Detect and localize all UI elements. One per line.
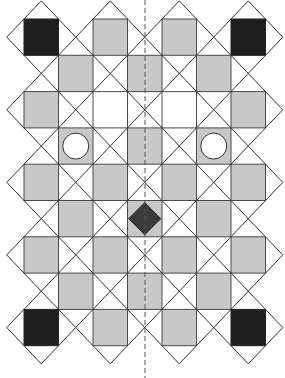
gray-square-tile: [231, 164, 266, 200]
gray-square-tile: [93, 19, 128, 55]
bottom-edge-triangle: [24, 346, 59, 364]
black-square-tile: [231, 19, 266, 55]
gray-square-tile: [162, 309, 197, 345]
right-edge-triangle: [266, 19, 283, 55]
gray-square-tile: [59, 201, 94, 237]
gray-square-tile: [197, 55, 232, 91]
gray-square-tile: [162, 237, 197, 273]
top-edge-triangle: [231, 1, 266, 19]
right-edge-triangle: [266, 309, 283, 345]
top-edge-triangle: [93, 1, 128, 19]
gray-square-tile: [93, 164, 128, 200]
left-edge-triangle: [7, 19, 24, 55]
right-edge-triangle: [266, 237, 283, 273]
black-square-tile: [231, 309, 266, 345]
gray-square-tile: [93, 237, 128, 273]
circle-marker: [201, 133, 227, 159]
gray-square-tile: [231, 237, 266, 273]
gray-square-tile: [197, 201, 232, 237]
right-edge-triangle: [266, 164, 283, 200]
white-square-tile: [162, 92, 197, 128]
circle-marker: [63, 133, 89, 159]
gray-square-tile: [59, 55, 94, 91]
gray-square-tile: [162, 164, 197, 200]
left-edge-triangle: [7, 164, 24, 200]
gray-square-tile: [59, 273, 94, 309]
black-square-tile: [24, 19, 59, 55]
gray-square-tile: [93, 309, 128, 345]
gray-square-tile: [24, 164, 59, 200]
left-edge-triangle: [7, 92, 24, 128]
gray-square-tile: [162, 19, 197, 55]
gray-square-tile: [231, 92, 266, 128]
white-square-tile: [93, 92, 128, 128]
gray-square-tile: [24, 92, 59, 128]
gray-square-tile: [24, 237, 59, 273]
left-edge-triangle: [7, 309, 24, 345]
right-edge-triangle: [266, 92, 283, 128]
bottom-edge-triangle: [93, 346, 128, 364]
gray-square-tile: [197, 273, 232, 309]
top-edge-triangle: [162, 1, 197, 19]
black-square-tile: [24, 309, 59, 345]
tiling-diagram: [0, 0, 285, 378]
bottom-edge-triangle: [162, 346, 197, 364]
top-edge-triangle: [24, 1, 59, 19]
left-edge-triangle: [7, 237, 24, 273]
bottom-edge-triangle: [231, 346, 266, 364]
